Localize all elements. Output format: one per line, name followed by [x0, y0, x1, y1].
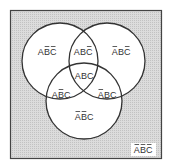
set-letter: A	[98, 90, 104, 100]
region-label-c-only: ABC	[75, 112, 94, 123]
set-letter: A	[134, 145, 140, 155]
venn-diagram: ABCABCABCABCABCABCABCABC	[0, 0, 169, 167]
set-letter: C	[87, 112, 94, 122]
region-label-bc: ABC	[98, 90, 117, 101]
region-label-a-only: ABC	[38, 47, 57, 58]
set-letter: A	[38, 47, 44, 57]
set-letter: C	[64, 90, 71, 100]
set-letter: C	[124, 47, 131, 57]
region-label-b-only: ABC	[112, 47, 131, 58]
region-label-abc: ABC	[75, 71, 94, 81]
set-letter: C	[146, 145, 153, 155]
set-letter: A	[52, 90, 58, 100]
set-letter: C	[50, 47, 57, 57]
set-letter: A	[112, 47, 118, 57]
set-letter: C	[86, 47, 93, 57]
set-letter: A	[75, 112, 81, 122]
set-letter: A	[75, 71, 81, 81]
region-label-ab: ABC	[74, 47, 93, 58]
set-letter: A	[74, 47, 80, 57]
set-letter: C	[110, 90, 117, 100]
region-label-none: ABC	[134, 145, 153, 156]
set-letter: C	[87, 71, 94, 81]
region-label-ac: ABC	[52, 90, 71, 101]
